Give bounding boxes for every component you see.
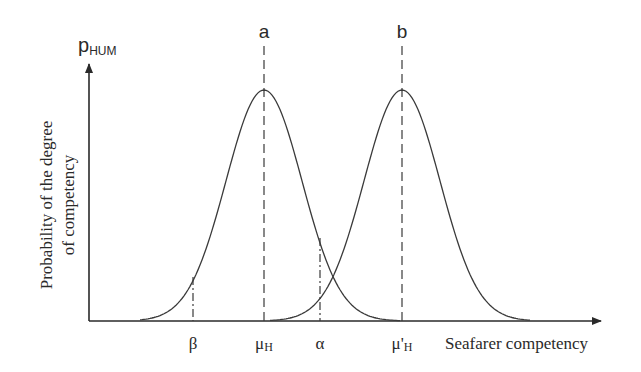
mu-h-label: μH	[255, 334, 273, 354]
beta-label: β	[189, 334, 198, 353]
y-axis-symbol: pHUM	[78, 34, 116, 58]
y-axis-label-line2: of competency	[59, 154, 78, 255]
curve-a-label: a	[259, 21, 270, 42]
y-axis-label-line1: Probability of the degree	[37, 121, 56, 290]
curve-b-label: b	[397, 21, 408, 42]
curve-a	[140, 90, 400, 321]
x-axis-label: Seafarer competency	[445, 334, 588, 353]
alpha-label: α	[316, 334, 325, 353]
mu-h-prime-label: μ'H	[392, 334, 413, 354]
normal-distribution-diagram: a b pHUM Probability of the degree of co…	[0, 0, 641, 372]
